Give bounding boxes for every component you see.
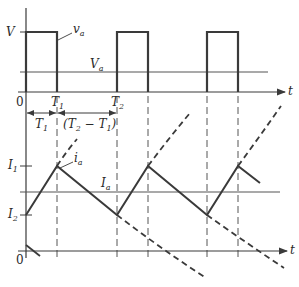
label-ia: ia — [74, 152, 83, 167]
voltage-pulses — [26, 32, 238, 92]
current-plot — [18, 106, 287, 278]
label-I1: I1 — [8, 159, 18, 174]
label-va: va — [73, 23, 85, 38]
va-leader — [58, 33, 72, 40]
waveform-graphics — [0, 0, 299, 287]
label-t-current: t — [290, 244, 295, 256]
chopper-waveform-diagram: V va Va 0 T1 T2 t T1 (T2 − T1) I1 I2 ia … — [0, 0, 299, 287]
voltage-plot — [18, 32, 285, 92]
label-Va-mean: Va — [90, 58, 103, 73]
label-Ia-mean: Ia — [101, 177, 111, 192]
current-waveform — [26, 166, 260, 215]
label-T1-interval: T1 — [35, 118, 48, 133]
label-t-voltage: t — [288, 85, 293, 97]
ia-leader — [60, 162, 73, 168]
label-T2-minus-T1-interval: (T2 − T1) — [63, 118, 116, 133]
label-I2: I2 — [8, 208, 18, 223]
label-T2-tick: T2 — [111, 96, 124, 111]
label-V: V — [6, 26, 15, 38]
label-zero-voltage: 0 — [16, 96, 24, 108]
label-zero-current: 0 — [16, 254, 24, 266]
label-T1-tick: T1 — [51, 96, 64, 111]
